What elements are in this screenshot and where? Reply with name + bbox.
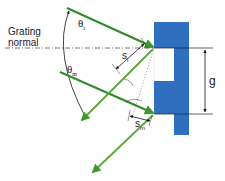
s-i-tick-2 <box>112 64 120 74</box>
s-m-label: sm <box>135 118 145 134</box>
theta-m-label: θm <box>67 64 77 80</box>
s-i-subscript: i <box>127 57 128 63</box>
s-i-label: si <box>122 50 128 66</box>
grating-profile <box>154 22 189 135</box>
theta-m-subscript: m <box>72 71 77 77</box>
grating-normal-label: Grating normal <box>8 26 41 48</box>
grating-normal-label-line2: normal <box>8 37 41 48</box>
right-angle-marker-1 <box>124 79 133 86</box>
s-m-subscript: m <box>140 125 145 131</box>
grating-normal-label-line1: Grating <box>8 26 41 37</box>
theta-i-label: θi <box>78 18 85 34</box>
groove-spacing-label: g <box>209 76 216 87</box>
s-m-tick-1 <box>128 110 130 121</box>
theta-i-subscript: i <box>83 25 85 31</box>
